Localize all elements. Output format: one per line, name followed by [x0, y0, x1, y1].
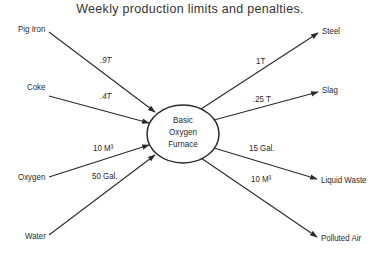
input-label-pig-iron: Pig Iron — [18, 24, 45, 34]
output-value-steel: 1T — [256, 56, 265, 66]
furnace-label: Basic Oxygen Furnace — [153, 114, 213, 150]
input-label-water: Water — [25, 231, 46, 241]
input-value-oxygen: 10 M³ — [93, 143, 113, 153]
arrow-polluted-air — [201, 158, 317, 237]
furnace-label-line-2: Oxygen — [156, 126, 210, 138]
furnace-label-line-3: Furnace — [156, 138, 210, 150]
arrow-coke — [49, 96, 149, 123]
output-value-polluted-air: 10 M³ — [251, 174, 271, 184]
furnace-label-line-1: Basic — [156, 114, 210, 126]
input-value-water: 50 Gal. — [92, 171, 118, 181]
output-label-steel: Steel — [322, 26, 340, 36]
input-value-coke: .4T — [100, 91, 111, 101]
input-label-oxygen: Oxygen — [18, 172, 45, 182]
output-label-liquid-waste: Liquid Waste — [321, 175, 366, 185]
arrow-water — [49, 155, 155, 235]
output-value-slag: .25 T — [253, 94, 271, 104]
output-value-liquid-waste: 15 Gal. — [249, 143, 275, 153]
output-label-slag: Slag — [322, 85, 338, 95]
input-value-pig-iron: .9T — [100, 55, 111, 65]
output-label-polluted-air: Polluted Air — [321, 233, 361, 243]
input-label-coke: Coke — [27, 82, 45, 92]
